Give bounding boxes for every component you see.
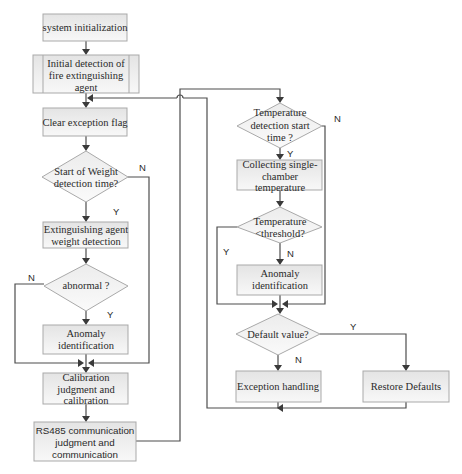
svg-text:Clear exception flag: Clear exception flag (42, 117, 128, 128)
svg-text:Initial detection of: Initial detection of (47, 58, 125, 69)
flowchart: N Y N Y N Y Y N Y N system initializatio… (0, 0, 462, 474)
decision-default-value: Default value? (236, 314, 320, 355)
node-calibration: Calibration judgment and calibration (43, 372, 128, 406)
node-clear-exception-flag: Clear exception flag (42, 108, 128, 136)
svg-text:fire extinguishing: fire extinguishing (49, 70, 124, 81)
svg-text:Anomaly: Anomaly (260, 268, 300, 279)
label-default-yes: Y (350, 321, 357, 332)
label-weight-start-yes: Y (113, 206, 120, 217)
decision-abnormal: abnormal ? (44, 264, 128, 311)
node-anomaly-identification-left: Anomaly identification (43, 325, 128, 354)
decision-weight-detection-start: Start of Weight detection time? (42, 151, 128, 202)
label-abnormal-yes: Y (107, 309, 114, 320)
node-system-initialization: system initialization (43, 14, 129, 41)
svg-text:abnormal ?: abnormal ? (63, 280, 110, 291)
label-default-no: N (295, 354, 302, 365)
svg-text:time ?: time ? (267, 132, 293, 143)
decision-temperature-start: Temperature detection start time ? (237, 103, 322, 148)
svg-text:weight detection: weight detection (51, 236, 121, 247)
label-temp-threshold-yes: Y (223, 246, 230, 257)
label-abnormal-no: N (28, 272, 35, 283)
svg-text:Temperature: Temperature (254, 216, 307, 227)
svg-text:Restore Defaults: Restore Defaults (371, 381, 441, 392)
svg-text:detection time?: detection time? (54, 178, 119, 189)
svg-text:Start of Weight: Start of Weight (54, 166, 118, 177)
node-rs485-communication: RS485 communication judgment and communi… (34, 422, 136, 461)
node-weight-detection: Extinguishing agent weight detection (43, 222, 128, 248)
svg-text:Extinguishing agent: Extinguishing agent (44, 224, 128, 235)
svg-text:judgment and: judgment and (54, 437, 114, 448)
svg-text:Temperature: Temperature (254, 107, 307, 118)
node-exception-handling: Exception handling (236, 371, 321, 402)
label-temp-start-no: N (334, 113, 341, 124)
svg-text:identification: identification (58, 340, 115, 351)
svg-text:communication: communication (52, 449, 118, 460)
svg-text:judgment and: judgment and (56, 384, 115, 395)
node-anomaly-identification-right: Anomaly identification (237, 265, 322, 295)
svg-text:Default value?: Default value? (247, 329, 309, 340)
svg-text:Collecting single-: Collecting single- (243, 159, 318, 170)
node-restore-defaults: Restore Defaults (363, 371, 449, 402)
label-weight-start-no: N (139, 162, 146, 173)
node-initial-detection: Initial detection of fire extinguishing … (33, 55, 139, 93)
svg-text:chamber: chamber (262, 171, 299, 182)
svg-text:agent: agent (75, 82, 98, 93)
svg-text:Exception handling: Exception handling (237, 381, 320, 392)
label-temp-threshold-no: N (287, 248, 294, 259)
svg-text:system initialization: system initialization (43, 22, 129, 33)
svg-text:calibration: calibration (64, 395, 110, 406)
label-temp-start-yes: Y (287, 148, 294, 159)
svg-text:<threshold?: <threshold? (255, 228, 305, 239)
svg-text:Calibration: Calibration (62, 372, 110, 383)
svg-text:Anomaly: Anomaly (66, 328, 106, 339)
svg-text:temperature: temperature (255, 182, 305, 193)
decision-temperature-threshold: Temperature <threshold? (237, 207, 322, 243)
svg-text:identification: identification (252, 280, 309, 291)
svg-text:RS485 communication: RS485 communication (36, 425, 135, 436)
svg-text:detection start: detection start (250, 120, 309, 131)
node-collect-temperature: Collecting single- chamber temperature (237, 159, 322, 193)
